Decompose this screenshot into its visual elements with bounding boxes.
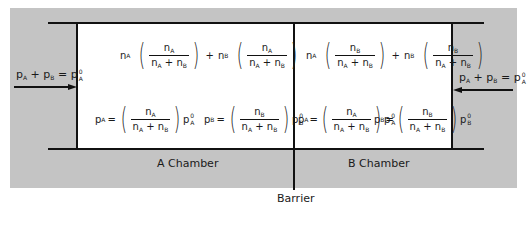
chamber-a-pressure-a-equation: pA = ( nA nA + nB ) p0A (95, 104, 194, 134)
chamber-b-moles-equation: nA ( nB nA + nB ) + nB ( nB nA + nB ) (306, 40, 486, 70)
bottom-wall (48, 148, 484, 150)
chamber-a-label: A Chamber (157, 157, 218, 170)
chamber-a-moles-equation: nA ( nA nA + nB ) + nB ( nA nA + nB ) (120, 40, 300, 70)
arrow-head-left-icon (453, 87, 462, 93)
top-wall (48, 22, 484, 24)
right-pressure-label: pA + pB = p0A (459, 71, 526, 85)
right-pressure-arrow (461, 89, 513, 91)
left-pressure-arrow (14, 86, 70, 88)
left-pressure-label: pA + pB = p0A (16, 68, 83, 82)
chamber-a-pressure-b-equation: pB = ( nB nA + nB ) p0B (204, 104, 303, 134)
chamber-b-pressure-b-equation: pB = ( nB nA + nB ) p0B (374, 104, 471, 134)
barrier-label: Barrier (277, 192, 315, 205)
chamber-b-label: B Chamber (348, 157, 409, 170)
arrow-head-right-icon (68, 84, 77, 90)
